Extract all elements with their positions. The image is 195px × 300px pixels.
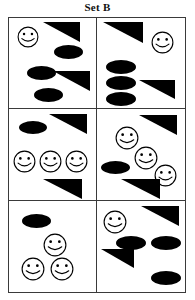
- smiley-face-icon: [13, 150, 36, 173]
- filled-right-triangle-shape: [49, 114, 87, 134]
- smiley-face-icon: [43, 233, 67, 257]
- filled-right-triangle-shape: [121, 179, 160, 199]
- filled-ellipse-shape: [106, 76, 136, 90]
- filled-ellipse-shape: [34, 88, 63, 102]
- filled-right-triangle-shape: [53, 71, 90, 91]
- filled-ellipse-shape: [106, 92, 136, 106]
- cell-2-top-right[interactable]: [97, 18, 185, 109]
- filled-right-triangle-shape: [103, 22, 143, 43]
- smiley-face-icon: [39, 150, 62, 173]
- smiley-face-icon: [50, 257, 74, 281]
- filled-ellipse-shape: [106, 60, 136, 74]
- filled-ellipse-shape: [151, 236, 181, 250]
- filled-ellipse-shape: [151, 271, 181, 285]
- smiley-face-icon: [103, 210, 127, 234]
- cell-1-top-left[interactable]: [9, 18, 97, 109]
- cell-6-bottom-right[interactable]: [97, 201, 185, 292]
- filled-right-triangle-shape: [141, 206, 179, 226]
- puzzle-grid: [8, 17, 186, 293]
- smiley-face-icon: [21, 257, 45, 281]
- filled-right-triangle-shape: [43, 22, 80, 42]
- cell-5-bottom-left[interactable]: [9, 201, 97, 292]
- smiley-face-icon: [17, 26, 39, 48]
- filled-right-triangle-shape: [101, 249, 134, 268]
- filled-ellipse-shape: [22, 214, 51, 228]
- cell-3-middle-left[interactable]: [9, 109, 97, 200]
- filled-right-triangle-shape: [43, 179, 82, 199]
- filled-right-triangle-shape: [139, 80, 175, 99]
- set-b-figure: Set B: [0, 0, 195, 300]
- smiley-face-icon: [65, 150, 88, 173]
- filled-ellipse-shape: [116, 236, 146, 250]
- filled-ellipse-shape: [27, 66, 56, 80]
- filled-right-triangle-shape: [139, 115, 177, 135]
- filled-ellipse-shape: [54, 45, 83, 59]
- page-title: Set B: [0, 1, 195, 14]
- cell-4-middle-right[interactable]: [97, 109, 185, 200]
- filled-ellipse-shape: [101, 161, 130, 174]
- filled-ellipse-shape: [19, 121, 47, 134]
- smiley-face-icon: [151, 31, 174, 54]
